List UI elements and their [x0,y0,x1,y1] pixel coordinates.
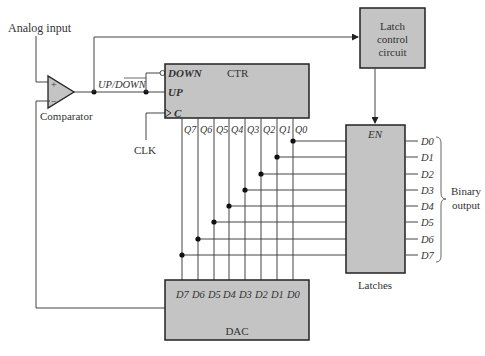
latch-outputs: D0 D1 D2 D3 D4 D5 D6 D7 [405,136,435,261]
brace-icon [436,137,446,262]
comparator-minus: − [51,96,57,107]
dac-d2: D2 [254,289,269,300]
latch-control-line3: circuit [378,46,406,58]
q2-label: Q2 [263,124,275,135]
latches-block: EN Latches [346,125,405,291]
q0-label: Q0 [295,124,307,135]
comparator-plus: + [51,79,57,90]
counter-block: DOWN CTR UP C [165,64,309,119]
latch-control-block: Latch control circuit [360,8,425,68]
binary-output-label-1: Binary [451,185,481,197]
d4-out-label: D4 [420,201,435,212]
counter-title: CTR [227,67,249,79]
dac-d5: D5 [207,289,221,300]
d0-out-label: D0 [420,136,435,147]
d3-out-label: D3 [420,185,434,196]
counter-outputs: Q7 Q6 Q5 Q4 Q3 Q2 Q1 Q0 [184,124,307,135]
analog-input-wire [36,36,50,82]
counter-clock-label: C [174,107,182,119]
dac-block: D7 D6 D5 D4 D3 D2 D1 D0 DAC [165,280,309,340]
latches-box [346,125,405,273]
clk-label: CLK [134,144,156,156]
q6-label: Q6 [200,124,212,135]
d7-out-label: D7 [420,250,435,261]
counter-up-label: UP [168,86,183,98]
analog-input-label: Analog input [8,21,72,35]
latch-control-line1: Latch [380,20,406,32]
dac-d6: D6 [191,289,206,300]
binary-output-label-2: output [452,199,480,211]
q5-label: Q5 [216,124,228,135]
dac-d4: D4 [222,289,237,300]
clk-wire [146,113,165,140]
dac-d7: D7 [175,289,190,300]
dac-d0: D0 [286,289,301,300]
d1-out-label: D1 [420,152,434,163]
dac-title: DAC [225,325,248,337]
comparator-label: Comparator [40,110,93,122]
d5-out-label: D5 [420,217,434,228]
latches-label: Latches [358,279,392,291]
dac-d3: D3 [238,289,252,300]
q7-label: Q7 [184,124,197,135]
latch-control-line2: control [377,33,408,45]
latch-enable-label: EN [367,128,383,140]
q4-label: Q4 [231,124,243,135]
data-bus [179,118,346,280]
q1-label: Q1 [279,124,291,135]
q3-label: Q3 [247,124,259,135]
d2-out-label: D2 [420,169,435,180]
up-down-label: UP/DOWN [98,79,147,90]
down-wire [146,73,160,92]
dac-d1: D1 [270,289,284,300]
adc-tracking-diagram: Analog input + − Comparator UP/DOWN CLK … [0,0,485,356]
comparator: + − Comparator [40,76,93,122]
counter-down-label: DOWN [167,67,203,79]
d6-out-label: D6 [420,234,435,245]
